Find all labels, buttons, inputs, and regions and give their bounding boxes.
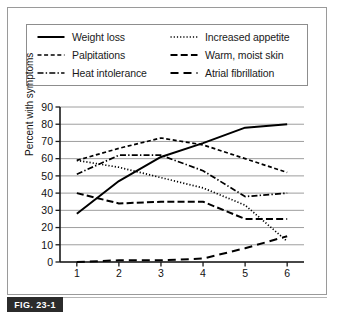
- legend-item-label: Increased appetite: [205, 31, 290, 43]
- series-line-palpitations: [77, 138, 287, 172]
- series-line-atrial-fibrillation: [77, 236, 287, 262]
- legend-item-label: Weight loss: [72, 31, 125, 43]
- x-axis-tick-label: 6: [284, 267, 290, 279]
- y-axis-tick-label: 60: [41, 152, 53, 164]
- x-axis-tick-label: 5: [242, 267, 248, 279]
- line-short-dash-icon: [37, 50, 65, 60]
- x-axis-tick-label: 2: [116, 267, 122, 279]
- figure-number-badge: FIG. 23-1: [7, 297, 63, 312]
- legend-item-label: Atrial fibrillation: [205, 67, 274, 79]
- plot-area: Percent with symptoms 010203040506070809…: [26, 96, 308, 282]
- line-medium-dash-icon: [170, 50, 198, 60]
- line-dash-dot-icon: [37, 68, 65, 78]
- y-axis-tick-label: 20: [41, 221, 53, 233]
- y-axis-tick-label: 10: [41, 239, 53, 251]
- y-axis-tick-label: 90: [41, 101, 53, 113]
- y-axis-tick-label: 70: [41, 135, 53, 147]
- y-axis-tick-label: 40: [41, 187, 53, 199]
- y-axis-tick-label: 30: [41, 204, 53, 216]
- figure-container: Weight lossIncreased appetitePalpitation…: [0, 0, 339, 320]
- figure-caption-rule: [63, 297, 327, 312]
- chart-legend: Weight lossIncreased appetitePalpitation…: [26, 24, 308, 86]
- x-axis-tick-label: 3: [158, 267, 164, 279]
- legend-grid: Weight lossIncreased appetitePalpitation…: [27, 25, 307, 85]
- legend-item: Palpitations: [37, 46, 170, 64]
- legend-item-label: Warm, moist skin: [205, 49, 284, 61]
- y-axis-tick-label: 50: [41, 170, 53, 182]
- line-chart-svg: 0102030405060708090123456Age in decades: [26, 96, 308, 282]
- legend-item: Heat intolerance: [37, 64, 170, 82]
- legend-item: Atrial fibrillation: [170, 64, 303, 82]
- line-solid-icon: [37, 32, 65, 42]
- line-dotted-icon: [170, 32, 198, 42]
- legend-item: Weight loss: [37, 28, 170, 46]
- legend-item: Increased appetite: [170, 28, 303, 46]
- x-axis-tick-label: 1: [74, 267, 80, 279]
- legend-item-label: Heat intolerance: [72, 67, 147, 79]
- y-axis-label: Percent with symptoms: [24, 53, 35, 156]
- y-axis-tick-label: 0: [47, 256, 53, 268]
- line-long-dash-icon: [170, 68, 198, 78]
- legend-item: Warm, moist skin: [170, 46, 303, 64]
- x-axis-tick-label: 4: [200, 267, 206, 279]
- y-axis-tick-label: 80: [41, 118, 53, 130]
- legend-item-label: Palpitations: [72, 49, 125, 61]
